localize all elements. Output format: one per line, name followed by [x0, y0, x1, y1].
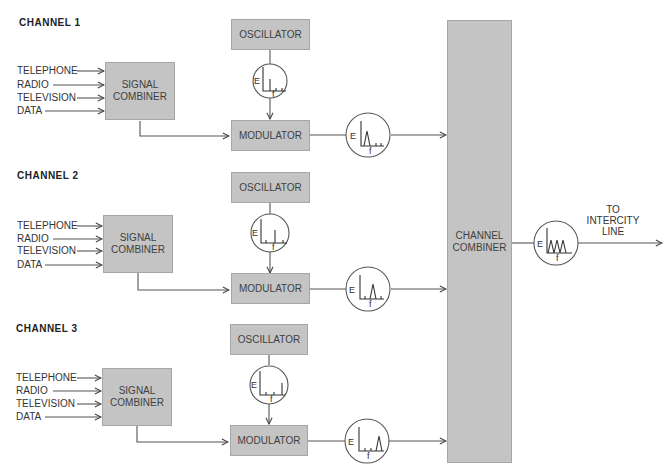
- signal-combiner-1: SIGNAL COMBINER: [105, 62, 175, 120]
- signal-combiner-label: SIGNAL COMBINER: [103, 385, 171, 409]
- input-radio: RADIO: [17, 233, 49, 245]
- svg-text:E: E: [349, 285, 355, 295]
- channel-3-title: CHANNEL 3: [16, 323, 78, 334]
- signal-combiner-label: SIGNAL COMBINER: [104, 232, 172, 256]
- input-television: TELEVISION: [16, 398, 75, 410]
- modulator-label: MODULATOR: [239, 130, 302, 142]
- connector-lines: E f E f E f E f E f E f E f: [0, 0, 671, 472]
- input-telephone: TELEPHONE: [17, 65, 78, 77]
- modulator-2: MODULATOR: [231, 273, 310, 304]
- signal-combiner-2: SIGNAL COMBINER: [103, 215, 173, 273]
- svg-text:E: E: [350, 131, 356, 141]
- oscillator-2: OSCILLATOR: [231, 172, 310, 203]
- modulator-label: MODULATOR: [238, 435, 301, 447]
- input-radio: RADIO: [17, 79, 49, 91]
- svg-text:E: E: [537, 239, 543, 249]
- svg-text:E: E: [252, 228, 258, 238]
- output-label: TO INTERCITY LINE: [583, 204, 643, 237]
- input-telephone: TELEPHONE: [17, 220, 78, 232]
- input-television: TELEVISION: [17, 92, 76, 104]
- multiplex-diagram: E f E f E f E f E f E f E f CHANNEL 1 TE…: [0, 0, 671, 472]
- channel-2-title: CHANNEL 2: [17, 170, 79, 181]
- signal-combiner-label: SIGNAL COMBINER: [106, 79, 174, 103]
- modulator-3: MODULATOR: [230, 425, 308, 456]
- svg-text:E: E: [348, 437, 354, 447]
- input-telephone: TELEPHONE: [16, 372, 77, 384]
- modulator-1: MODULATOR: [231, 120, 310, 151]
- axis-e-label: E: [254, 76, 260, 86]
- input-radio: RADIO: [16, 385, 48, 397]
- channel-combiner-label: CHANNEL COMBINER: [448, 230, 511, 254]
- oscillator-3: OSCILLATOR: [230, 324, 308, 355]
- input-data: DATA: [17, 105, 42, 117]
- channel-combiner: CHANNEL COMBINER: [447, 20, 512, 463]
- oscillator-1: OSCILLATOR: [231, 19, 310, 50]
- oscillator-label: OSCILLATOR: [239, 29, 301, 41]
- oscillator-label: OSCILLATOR: [239, 182, 301, 194]
- input-data: DATA: [16, 411, 41, 423]
- channel-1-title: CHANNEL 1: [19, 17, 81, 28]
- modulator-label: MODULATOR: [239, 283, 302, 295]
- signal-combiner-3: SIGNAL COMBINER: [102, 368, 172, 426]
- input-data: DATA: [17, 259, 42, 271]
- oscillator-label: OSCILLATOR: [238, 334, 300, 346]
- input-television: TELEVISION: [17, 245, 76, 257]
- svg-text:E: E: [251, 380, 257, 390]
